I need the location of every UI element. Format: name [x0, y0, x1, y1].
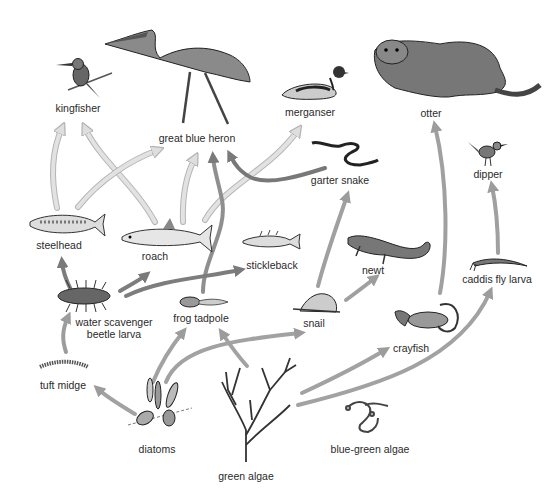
- green-algae-icon: [222, 358, 296, 462]
- label-otter: otter: [420, 107, 441, 119]
- label-green-algae: green algae: [218, 470, 273, 482]
- arrow-greenalgae-crayfish: [302, 350, 385, 393]
- snake-icon: [312, 142, 378, 165]
- food-web-diagram: kingfisher great blue heron merganser ot…: [0, 0, 559, 497]
- label-merganser: merganser: [285, 106, 335, 118]
- label-dipper: dipper: [473, 168, 502, 180]
- tadpole-icon: [180, 297, 228, 307]
- label-kingfisher: kingfisher: [56, 102, 101, 114]
- steelhead-icon: [30, 214, 105, 236]
- label-beetle-larva-line2: beetle larva: [75, 328, 152, 340]
- diatoms-icon: [128, 378, 192, 428]
- heron-icon: [104, 30, 250, 124]
- label-crayfish: crayfish: [393, 342, 429, 354]
- caddis-larva-icon: [470, 259, 527, 271]
- food-web-arrows: [0, 0, 559, 497]
- beetle-larva-icon: [58, 280, 110, 312]
- arrow-snail-newt: [346, 278, 375, 300]
- label-diatoms: diatoms: [139, 443, 176, 455]
- arrow-steelhead-kingfisher: [53, 128, 62, 208]
- roach-icon: [122, 218, 212, 252]
- blue-green-algae-icon: [346, 402, 388, 432]
- arrow-crayfish-otter: [435, 126, 445, 293]
- label-tuft-midge: tuft midge: [40, 379, 86, 391]
- label-steelhead: steelhead: [36, 239, 82, 251]
- label-caddis-fly-larva: caddis fly larva: [462, 273, 531, 285]
- label-frog-tadpole: frog tadpole: [173, 312, 228, 324]
- merganser-icon: [282, 66, 349, 99]
- stickleback-icon: [243, 230, 300, 249]
- label-stickleback: stickleback: [246, 259, 297, 271]
- arrow-snail-snake: [318, 196, 347, 286]
- label-beetle-larva: water scavenger beetle larva: [75, 316, 152, 340]
- arrow-beetle-steelhead: [62, 262, 71, 290]
- dipper-icon: [468, 142, 508, 166]
- arrow-roach-kingfisher: [85, 128, 155, 222]
- arrow-diatoms-snail: [166, 333, 300, 382]
- label-garter-snake: garter snake: [311, 174, 369, 186]
- arrow-greenalgae-tadpole: [222, 333, 247, 366]
- otter-icon: [374, 40, 540, 97]
- newt-icon: [348, 236, 430, 264]
- arrow-roach-heron: [183, 158, 195, 222]
- arrow-beetle-stickleback: [126, 270, 240, 296]
- snail-icon: [293, 294, 340, 312]
- arrow-steelhead-heron: [78, 150, 158, 207]
- arrow-caddis-dipper: [492, 186, 498, 253]
- crayfish-icon: [395, 304, 458, 331]
- label-roach: roach: [142, 250, 168, 262]
- label-beetle-larva-line1: water scavenger: [75, 316, 152, 328]
- label-blue-green-algae: blue-green algae: [331, 443, 410, 455]
- label-great-blue-heron: great blue heron: [159, 132, 235, 144]
- label-newt: newt: [362, 264, 384, 276]
- arrow-midge-beetle: [63, 317, 68, 352]
- label-snail: snail: [303, 317, 325, 329]
- arrow-diatoms-midge: [98, 389, 135, 414]
- kingfisher-icon: [56, 59, 112, 99]
- midge-larva-icon: [40, 362, 88, 367]
